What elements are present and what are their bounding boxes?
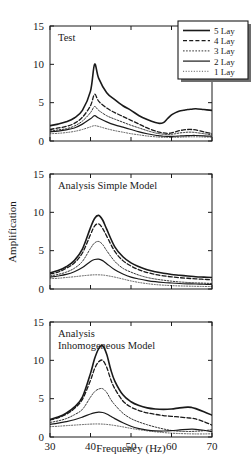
panel-title: Test [58,32,75,43]
x-tick-label: 40 [85,440,97,452]
panel-title: Inhomogeneous Model [58,340,155,351]
panel-title: Analysis Simple Model [58,180,157,191]
y-tick-label: 10 [33,206,45,218]
panel-2: 051015Analysis Simple Model [33,168,212,295]
y-tick-label: 5 [39,244,45,256]
x-tick-label: 30 [45,440,57,452]
legend-label-3-lay: 3 Lay [214,46,235,56]
y-tick-label: 15 [33,168,45,180]
x-tick-label: 70 [207,440,219,452]
legend-label-4-lay: 4 Lay [214,36,235,46]
legend-label-5-lay: 5 Lay [214,26,235,36]
y-tick-label: 0 [39,283,45,295]
figure-amplification-vs-frequency: 051015Test051015Analysis Simple Model051… [0,0,252,460]
y-tick-label: 15 [33,20,45,32]
x-axis-title: Frequency (Hz) [96,442,166,455]
legend-label-2-lay: 2 Lay [214,57,235,67]
figure-canvas: 051015Test051015Analysis Simple Model051… [0,0,252,460]
y-axis-title: Amplification [6,201,18,263]
x-tick-label: 60 [166,440,178,452]
legend: 5 Lay4 Lay3 Lay2 Lay1 Lay [178,21,251,82]
y-tick-label: 0 [39,135,45,147]
y-tick-label: 10 [33,354,45,366]
y-tick-label: 10 [33,58,45,70]
y-tick-label: 15 [33,316,45,328]
panel-title: Analysis [58,328,95,339]
panel-3: 0510153040506070AnalysisInhomogeneous Mo… [33,316,218,452]
legend-label-1-lay: 1 Lay [214,67,235,77]
y-tick-label: 5 [39,392,45,404]
y-tick-label: 5 [39,96,45,108]
